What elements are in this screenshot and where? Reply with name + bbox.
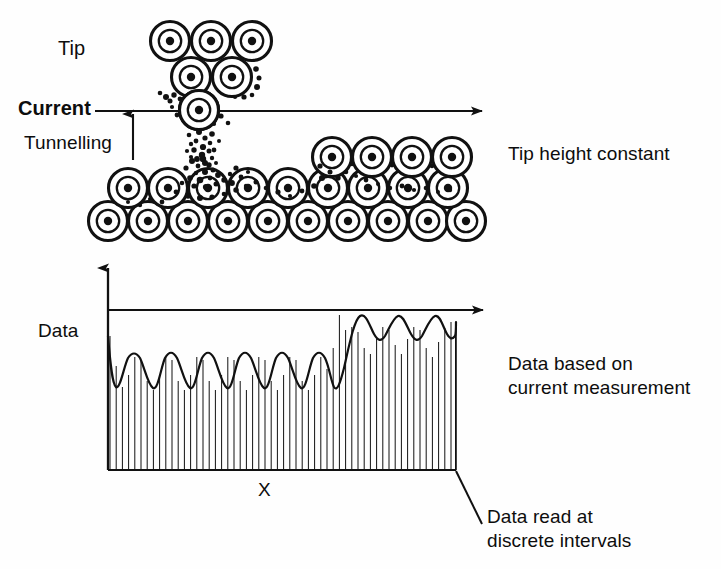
chart-x-axis-label: X (258, 478, 271, 502)
lower-chart-group (108, 268, 483, 524)
upper-diagram-group (89, 22, 486, 241)
tip-height-constant-label: Tip height constant (508, 142, 670, 166)
tunnelling-label: Tunnelling (24, 131, 112, 155)
data-read-at-discrete-intervals-annotation: Data read at discrete intervals (487, 505, 631, 554)
discrete-interval-leader-line (456, 471, 482, 524)
stm-diagram-figure: Tip Current Tunnelling Tip height consta… (0, 0, 721, 569)
tunnelling-current-trace (108, 315, 456, 388)
data-based-on-current-measurement-annotation: Data based on current measurement (508, 352, 690, 401)
surface-terrace-row (313, 138, 472, 177)
diagram-canvas (0, 0, 721, 569)
chart-y-axis-label: Data (38, 319, 79, 343)
tip-apex-atom (180, 91, 219, 130)
discrete-sample-lines (110, 315, 456, 470)
tip-label: Tip (58, 36, 85, 62)
current-label: Current (18, 96, 91, 122)
